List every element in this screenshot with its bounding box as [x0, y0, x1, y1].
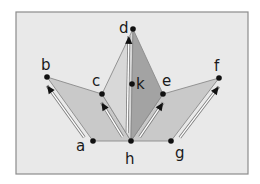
label-h: h — [125, 150, 135, 168]
point-h — [128, 138, 134, 144]
point-a — [90, 138, 96, 144]
label-f: f — [214, 57, 220, 75]
point-b — [44, 74, 50, 80]
label-g: g — [175, 144, 185, 162]
point-k — [129, 81, 135, 87]
label-d: d — [119, 19, 129, 37]
point-c — [99, 91, 105, 97]
point-f — [216, 75, 222, 81]
label-a: a — [76, 137, 85, 155]
point-g — [168, 138, 174, 144]
label-c: c — [92, 72, 100, 90]
point-e — [160, 91, 166, 97]
label-b: b — [41, 56, 51, 74]
label-k: k — [136, 75, 145, 93]
kite-fold-diagram: abcdefghk — [0, 0, 260, 184]
label-e: e — [162, 72, 171, 90]
point-d — [130, 26, 136, 32]
